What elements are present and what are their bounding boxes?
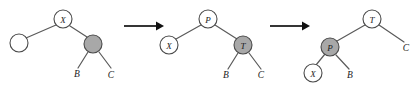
node-label-s2-x: X: [165, 41, 172, 51]
leaf-label-s2-b: B: [223, 70, 229, 80]
leaf-label-s3-b: B: [347, 70, 353, 80]
arrow-1-head: [156, 22, 164, 31]
edge-s1-gray-to-leaf-c: [99, 52, 111, 68]
edge-s2-p-to-x: [176, 25, 201, 39]
leaf-label-s1-b: B: [74, 69, 80, 79]
edge-s2-gray-to-leaf-c: [249, 53, 261, 69]
edge-s2-p-to-gray: [215, 25, 237, 39]
stage-1-group: X B C: [10, 10, 115, 80]
arrow-1: [124, 22, 164, 31]
arrow-2: [270, 22, 310, 31]
edge-s3-t-to-gray: [337, 25, 365, 41]
edge-s1-x-to-empty: [26, 25, 56, 38]
edge-s2-gray-to-leaf-b: [228, 53, 238, 69]
node-s1-highlight: [84, 35, 102, 53]
edge-s3-gray-to-x: [316, 54, 325, 65]
leaf-label-s2-c: C: [258, 70, 265, 80]
edge-s3-t-to-leaf-c: [379, 25, 404, 42]
node-label-s2-p: P: [204, 15, 211, 25]
stage-2-group: P X T B C: [160, 10, 265, 80]
node-s1-empty: [10, 34, 28, 52]
edge-s1-x-to-gray: [70, 26, 87, 37]
node-label-s3-x: X: [309, 69, 316, 79]
stage-3-group: T P X B C: [304, 10, 410, 82]
edge-s3-gray-to-leaf-b: [336, 55, 349, 69]
edge-s1-gray-to-leaf-b: [78, 52, 88, 68]
tree-rotation-diagram: X B C P X T B C: [0, 0, 419, 87]
tree-rotation-figure: X B C P X T B C: [0, 0, 419, 87]
node-label-s3-p: P: [326, 43, 333, 53]
arrow-2-head: [302, 22, 310, 31]
leaf-label-s1-c: C: [108, 70, 115, 80]
leaf-label-s3-c: C: [403, 43, 410, 53]
node-label-s1-x: X: [59, 15, 66, 25]
